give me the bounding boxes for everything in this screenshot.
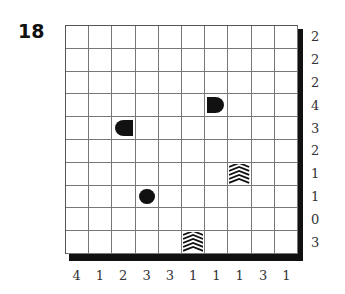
grid-cell[interactable] [252, 140, 275, 163]
grid-cell[interactable] [136, 117, 159, 140]
grid-cell[interactable] [228, 231, 251, 254]
grid-cell[interactable] [89, 186, 112, 209]
grid-cell[interactable] [136, 140, 159, 163]
grid-cell[interactable] [205, 72, 228, 95]
grid-cell[interactable] [182, 140, 205, 163]
grid-cell[interactable] [159, 26, 182, 49]
grid-cell[interactable] [205, 163, 228, 186]
grid-cell[interactable] [89, 49, 112, 72]
grid-cell[interactable] [66, 94, 89, 117]
grid-cell[interactable] [205, 231, 228, 254]
grid-cell[interactable] [89, 208, 112, 231]
grid-cell[interactable] [89, 231, 112, 254]
grid-cell[interactable] [252, 26, 275, 49]
grid-cell[interactable] [112, 117, 135, 140]
grid-cell[interactable] [275, 186, 298, 209]
grid-cell[interactable] [159, 72, 182, 95]
grid-cell[interactable] [182, 231, 205, 254]
grid-cell[interactable] [136, 231, 159, 254]
grid-cell[interactable] [66, 186, 89, 209]
grid-cell[interactable] [66, 140, 89, 163]
grid-cell[interactable] [275, 94, 298, 117]
grid-cell[interactable] [205, 94, 228, 117]
grid-cell[interactable] [66, 72, 89, 95]
grid-cell[interactable] [228, 72, 251, 95]
grid-cell[interactable] [159, 94, 182, 117]
grid-cell[interactable] [159, 186, 182, 209]
grid-cell[interactable] [252, 49, 275, 72]
grid-cell[interactable] [205, 49, 228, 72]
grid-cell[interactable] [136, 72, 159, 95]
grid-cell[interactable] [112, 49, 135, 72]
grid-cell[interactable] [182, 208, 205, 231]
grid-cell[interactable] [159, 117, 182, 140]
grid-cell[interactable] [228, 140, 251, 163]
grid-cell[interactable] [112, 231, 135, 254]
grid-cell[interactable] [159, 231, 182, 254]
grid-cell[interactable] [112, 72, 135, 95]
grid-cell[interactable] [66, 208, 89, 231]
grid-cell[interactable] [136, 26, 159, 49]
grid-cell[interactable] [275, 117, 298, 140]
grid-cell[interactable] [252, 94, 275, 117]
grid-cell[interactable] [159, 208, 182, 231]
grid-cell[interactable] [66, 26, 89, 49]
grid-cell[interactable] [275, 163, 298, 186]
grid-cell[interactable] [66, 163, 89, 186]
grid-cell[interactable] [112, 26, 135, 49]
grid-cell[interactable] [182, 94, 205, 117]
grid-cell[interactable] [205, 117, 228, 140]
grid-cell[interactable] [228, 94, 251, 117]
grid-cell[interactable] [182, 72, 205, 95]
grid-cell[interactable] [89, 26, 112, 49]
grid-cell[interactable] [66, 231, 89, 254]
grid-cell[interactable] [136, 163, 159, 186]
grid-cell[interactable] [159, 49, 182, 72]
grid-cell[interactable] [66, 49, 89, 72]
grid-cell[interactable] [275, 26, 298, 49]
grid-cell[interactable] [228, 49, 251, 72]
grid-cell[interactable] [252, 186, 275, 209]
grid-cell[interactable] [275, 231, 298, 254]
grid-cell[interactable] [228, 117, 251, 140]
grid-cell[interactable] [275, 140, 298, 163]
grid-cell[interactable] [89, 94, 112, 117]
grid-cell[interactable] [136, 49, 159, 72]
grid-cell[interactable] [275, 49, 298, 72]
grid-cell[interactable] [228, 186, 251, 209]
grid-cell[interactable] [252, 231, 275, 254]
grid-cell[interactable] [182, 163, 205, 186]
grid-cell[interactable] [112, 94, 135, 117]
grid-cell[interactable] [112, 140, 135, 163]
grid-cell[interactable] [112, 186, 135, 209]
grid-cell[interactable] [89, 163, 112, 186]
grid-cell[interactable] [182, 186, 205, 209]
grid-cell[interactable] [112, 163, 135, 186]
grid-cell[interactable] [252, 163, 275, 186]
grid-cell[interactable] [89, 117, 112, 140]
grid-cell[interactable] [228, 26, 251, 49]
grid-cell[interactable] [252, 208, 275, 231]
grid-cell[interactable] [205, 186, 228, 209]
grid-cell[interactable] [205, 26, 228, 49]
grid-cell[interactable] [159, 163, 182, 186]
grid-cell[interactable] [205, 140, 228, 163]
grid-cell[interactable] [66, 117, 89, 140]
grid-cell[interactable] [275, 72, 298, 95]
grid-cell[interactable] [182, 26, 205, 49]
grid-cell[interactable] [136, 208, 159, 231]
grid-cell[interactable] [89, 140, 112, 163]
grid-cell[interactable] [112, 208, 135, 231]
grid-cell[interactable] [136, 186, 159, 209]
grid-cell[interactable] [89, 72, 112, 95]
grid-cell[interactable] [136, 94, 159, 117]
grid-cell[interactable] [228, 208, 251, 231]
grid-cell[interactable] [159, 140, 182, 163]
grid-cell[interactable] [252, 72, 275, 95]
grid-cell[interactable] [252, 117, 275, 140]
grid-cell[interactable] [182, 117, 205, 140]
grid-cell[interactable] [228, 163, 251, 186]
grid-cell[interactable] [205, 208, 228, 231]
grid-cell[interactable] [275, 208, 298, 231]
grid-cell[interactable] [182, 49, 205, 72]
